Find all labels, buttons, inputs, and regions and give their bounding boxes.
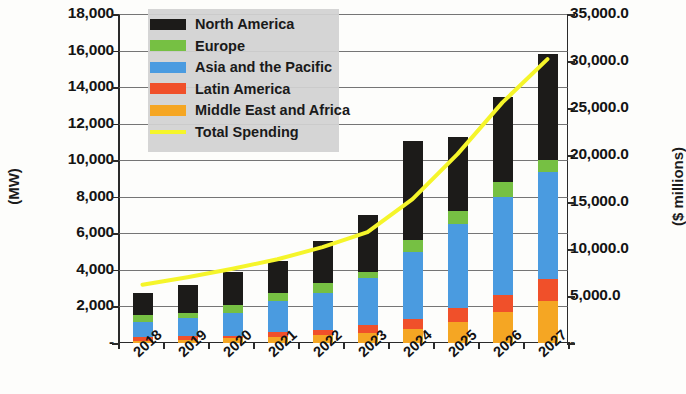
y-axis-left-tick-label: 8,000 xyxy=(28,187,114,205)
legend-label: Latin America xyxy=(195,81,290,97)
y-axis-left-tick-label: - xyxy=(28,333,114,351)
y-axis-right-tickmark xyxy=(567,296,575,298)
y-axis-left-ticks: -2,0004,0006,0008,00010,00012,00014,0001… xyxy=(28,0,114,394)
y-axis-right-tickmark xyxy=(567,249,575,251)
legend-item[interactable]: Asia and the Pacific xyxy=(150,57,332,77)
y-axis-right-tickmark xyxy=(567,108,575,110)
legend-label: Middle East and Africa xyxy=(195,102,350,118)
y-axis-right-tickmark xyxy=(567,202,575,204)
legend-swatch-icon xyxy=(150,40,186,51)
y-axis-left-tick-label: 12,000 xyxy=(28,114,114,132)
y-axis-right-tickmark xyxy=(567,61,575,63)
y-axis-left-tick-label: 14,000 xyxy=(28,77,114,95)
x-axis-labels: 2018201920202021202220232024202520262027 xyxy=(118,346,568,394)
legend-item[interactable]: Latin America xyxy=(150,79,290,99)
y-axis-left-tick-label: 2,000 xyxy=(28,296,114,314)
y-axis-right-tickmark xyxy=(567,155,575,157)
legend-item[interactable]: Middle East and Africa xyxy=(150,100,350,120)
x-axis-tickmark xyxy=(568,342,570,349)
legend-label: Asia and the Pacific xyxy=(195,59,332,75)
y-axis-left-title: (MW) xyxy=(5,152,22,222)
y-axis-right-tick-label: 10,000.0 xyxy=(570,239,629,257)
legend-item[interactable]: Europe xyxy=(150,36,245,56)
y-axis-right-tick-label: 5,000.0 xyxy=(570,286,620,304)
y-axis-left-tick-label: 18,000 xyxy=(28,4,114,22)
legend-swatch-icon xyxy=(150,83,186,94)
y-axis-right-tick-label: - xyxy=(570,333,575,351)
legend-item[interactable]: Total Spending xyxy=(150,122,299,142)
legend-swatch-icon xyxy=(150,130,186,134)
y-axis-left-tick-label: 6,000 xyxy=(28,223,114,241)
y-axis-right-tick-label: 30,000.0 xyxy=(570,51,629,69)
legend-label: Europe xyxy=(195,38,245,54)
y-axis-left-tick-label: 16,000 xyxy=(28,41,114,59)
y-axis-left-tick-label: 4,000 xyxy=(28,260,114,278)
y-axis-right-tick-label: 15,000.0 xyxy=(570,192,629,210)
legend-swatch-icon xyxy=(150,62,186,73)
y-axis-right-tick-label: 35,000.0 xyxy=(570,4,629,22)
y-axis-left-tick-label: 10,000 xyxy=(28,150,114,168)
legend-label: North America xyxy=(195,16,294,32)
y-axis-right-ticks: -5,000.010,000.015,000.020,000.025,000.0… xyxy=(570,0,680,394)
legend-item[interactable]: North America xyxy=(150,14,294,34)
legend-swatch-icon xyxy=(150,105,186,116)
legend-swatch-icon xyxy=(150,19,186,30)
legend: North AmericaEuropeAsia and the PacificL… xyxy=(150,11,400,154)
y-axis-right-tickmark xyxy=(567,14,575,16)
legend-label: Total Spending xyxy=(195,124,299,140)
y-axis-right-tick-label: 20,000.0 xyxy=(570,145,629,163)
y-axis-right-tick-label: 25,000.0 xyxy=(570,98,629,116)
